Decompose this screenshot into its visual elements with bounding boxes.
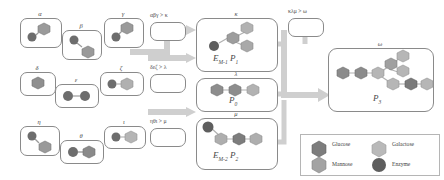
node-beta[interactable] — [62, 30, 102, 60]
omega-box[interactable]: P3 — [328, 48, 434, 112]
node-label-iota: ι — [104, 118, 144, 125]
legend-label-galactose: Galactose — [392, 141, 414, 147]
legend-label-glucose: Glucose — [332, 141, 350, 147]
hexagon-galactose-icon — [397, 65, 409, 77]
node-label-theta: θ — [60, 132, 102, 139]
circle-enzyme-icon — [112, 133, 121, 142]
hexagon-galactose-icon — [241, 22, 253, 34]
hexagon-galactose-icon — [215, 133, 227, 145]
node-epsilon[interactable] — [55, 84, 99, 108]
circle-enzyme-icon — [108, 80, 117, 89]
node-label-zeta: ζ — [100, 64, 142, 71]
hexagon-galactose-icon — [125, 131, 137, 143]
node-zeta-shapes — [101, 73, 143, 95]
hexagon-glucose-icon — [233, 133, 245, 145]
bond-line — [36, 32, 39, 35]
condition-label-row3: ηθι > μ — [150, 118, 167, 124]
circle-enzyme-icon — [63, 91, 73, 101]
hexagon-glucose-icon — [355, 67, 367, 79]
arrow-mu-out — [278, 100, 284, 142]
hexagon-galactose-icon — [247, 84, 259, 96]
hexagon-mannose-icon — [39, 141, 51, 153]
product-E-subscript: M-2 — [219, 156, 228, 162]
hexagon-glucose-icon — [83, 146, 95, 158]
node-theta[interactable] — [60, 140, 104, 164]
midbox-label-mu: μ — [196, 110, 276, 117]
arrowhead-row3 — [186, 107, 196, 117]
product-P-subscript: 0 — [235, 101, 238, 107]
condition-label-row1: αβγ > κ — [150, 12, 168, 18]
product-P-subscript: 1 — [235, 59, 238, 65]
product-E-subscript: M-1 — [219, 59, 228, 65]
midbox-mu[interactable]: EM-2 P2 — [196, 118, 278, 170]
hexagon-galactose-icon — [387, 78, 399, 90]
midbox-label-lambda: λ — [196, 70, 276, 77]
node-label-epsilon: ε — [55, 76, 97, 83]
hexagon-galactose-icon — [421, 78, 433, 90]
bond-line — [35, 139, 39, 143]
legend-label-enzyme: Enzyme — [392, 161, 410, 167]
hexagon-glucose-icon — [32, 77, 44, 89]
midbox-kappa-product: EM-1 P1 — [213, 53, 238, 65]
legend-mannose-hexagon-icon — [312, 157, 326, 173]
gate-row2[interactable] — [150, 74, 186, 93]
node-label-eta: η — [20, 118, 58, 125]
hexagon-mannose-icon — [227, 32, 239, 44]
legend-galactose-hexagon-icon — [372, 141, 386, 157]
bond-line — [119, 31, 122, 34]
hexagon-glucose-icon — [211, 84, 223, 96]
glycan-pathway-diagram: α β γ αβγ > κ δ ε — [0, 0, 444, 180]
node-gamma[interactable] — [104, 18, 144, 48]
midbox-label-kappa: κ — [196, 10, 276, 17]
product-P-subscript: 3 — [379, 99, 382, 105]
condition-label-row2: δεζ > λ — [150, 64, 167, 70]
midbox-kappa[interactable]: EM-1 P1 — [196, 18, 278, 72]
hexagon-galactose-icon — [121, 78, 133, 90]
hexagon-glucose-icon — [121, 22, 133, 34]
gate-final[interactable] — [288, 18, 324, 37]
condition-label-final: κλμ > ω — [288, 8, 307, 14]
midbox-lambda-product: P0 — [229, 95, 237, 107]
node-theta-shapes — [61, 141, 103, 163]
arrowhead-row2 — [186, 53, 196, 63]
circle-enzyme-icon — [203, 122, 214, 133]
hexagon-galactose-icon — [397, 50, 409, 62]
circle-enzyme-icon — [209, 41, 219, 51]
hexagon-glucose-icon — [337, 67, 349, 79]
node-alpha-shapes — [21, 19, 61, 47]
hexagon-mannose-icon — [385, 58, 397, 70]
legend-label-mannose: Mannose — [332, 161, 353, 167]
hexagon-glucose-icon — [405, 78, 417, 90]
circle-enzyme-icon — [28, 33, 37, 42]
node-gamma-shapes — [105, 19, 143, 47]
hexagon-glucose-icon — [38, 23, 50, 35]
gate-row1[interactable] — [150, 22, 186, 41]
circle-enzyme-icon — [80, 91, 90, 101]
node-label-delta: δ — [20, 64, 54, 71]
hexagon-galactose-icon — [250, 133, 262, 145]
node-iota-shapes — [105, 127, 145, 148]
node-alpha[interactable] — [20, 18, 62, 48]
circle-enzyme-icon — [68, 147, 78, 157]
arrowhead-row1 — [186, 25, 196, 35]
omega-box-label: ω — [328, 40, 432, 47]
gate-row3[interactable] — [150, 128, 186, 147]
legend-enzyme-circle-icon — [372, 158, 386, 172]
legend-glucose-hexagon-icon — [312, 141, 326, 157]
node-iota[interactable] — [104, 126, 146, 149]
node-delta[interactable] — [20, 72, 56, 96]
hexagon-galactose-icon — [241, 40, 253, 52]
node-delta-shapes — [21, 73, 55, 95]
bond-line — [77, 43, 82, 47]
hexagon-galactose-icon — [372, 67, 384, 79]
midbox-lambda[interactable]: P0 — [196, 78, 278, 112]
midbox-mu-product: EM-2 P2 — [213, 150, 238, 162]
hexagon-glucose-icon — [82, 46, 94, 58]
omega-product-label: P3 — [373, 93, 381, 105]
product-P-subscript: 2 — [235, 156, 238, 162]
node-label-alpha: α — [20, 10, 60, 17]
node-beta-shapes — [63, 31, 101, 59]
node-label-gamma: γ — [104, 10, 142, 17]
node-zeta[interactable] — [100, 72, 144, 96]
node-eta[interactable] — [20, 126, 60, 156]
